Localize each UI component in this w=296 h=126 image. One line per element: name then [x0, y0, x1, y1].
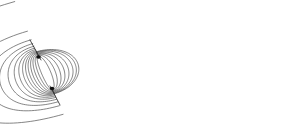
north-pole-marker — [36, 55, 41, 58]
figure-background — [0, 0, 296, 126]
dipole-field-figure — [0, 0, 296, 126]
south-pole-marker — [50, 87, 55, 90]
field-line-canvas — [0, 0, 296, 126]
